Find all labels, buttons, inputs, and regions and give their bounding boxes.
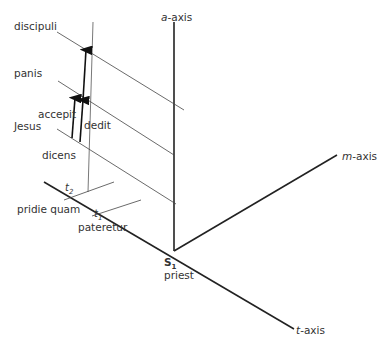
time-t2-symbol: t2 bbox=[65, 183, 73, 196]
m-axis-line bbox=[174, 155, 337, 251]
event-accepit: accepit bbox=[38, 109, 76, 120]
a-axis-label: a-axis bbox=[161, 12, 192, 23]
t2-vertical-line bbox=[88, 22, 93, 192]
m-axis-label: m-axis bbox=[342, 151, 377, 162]
participant-jesus: Jesus bbox=[14, 121, 41, 132]
participant-discipuli: discipuli bbox=[14, 21, 57, 32]
t-axis-label: t-axis bbox=[296, 325, 325, 336]
jesus-line bbox=[57, 129, 176, 204]
diagram-canvas bbox=[0, 0, 386, 348]
origin-label: priest bbox=[164, 270, 194, 281]
participant-dicens: dicens bbox=[42, 150, 76, 161]
time-t1-label: pateretur bbox=[78, 222, 127, 233]
dedit-arrow-short bbox=[80, 100, 83, 142]
dedit-arrow-long bbox=[83, 50, 86, 100]
participant-panis: panis bbox=[14, 68, 42, 79]
discipuli-line bbox=[57, 32, 184, 110]
event-dedit: dedit bbox=[84, 120, 111, 131]
time-t2-label: pridie quam bbox=[17, 204, 80, 215]
